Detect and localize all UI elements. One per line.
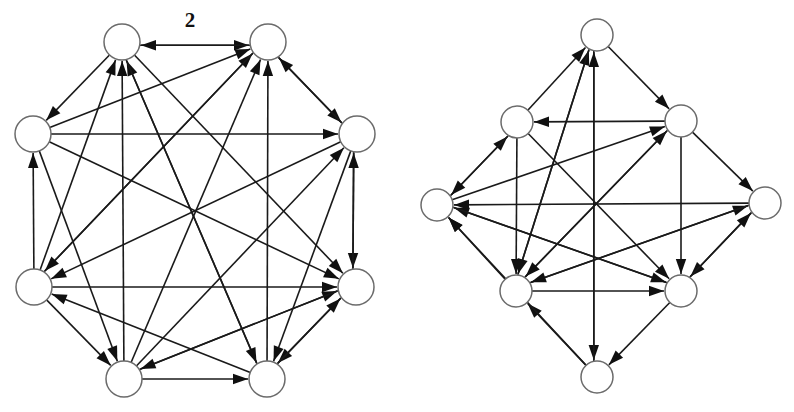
graph-edge-L0|L4 bbox=[126, 60, 256, 363]
graph-arrowhead-R2|R5 bbox=[531, 272, 547, 282]
graph-edge-L3|L2 bbox=[353, 153, 354, 269]
graph-arrowhead-L5|L4 bbox=[233, 374, 248, 384]
graph-arrowhead-L2|L6 bbox=[51, 268, 67, 279]
graph-node-R3[interactable] bbox=[665, 275, 697, 307]
graph-arrowhead-L4|L6 bbox=[52, 294, 68, 304]
graph-node-L4[interactable] bbox=[249, 361, 285, 397]
graph-edge-L7|L3 bbox=[49, 142, 339, 279]
graph-arrowhead-R5|R3 bbox=[649, 286, 664, 296]
graph-node-R5[interactable] bbox=[500, 275, 532, 307]
graph-arrowhead-L4|L1 bbox=[263, 61, 273, 76]
nodes-layer bbox=[15, 19, 781, 397]
graph-node-L3[interactable] bbox=[338, 269, 374, 305]
graph-edge-L7|L5 bbox=[39, 151, 117, 361]
graph-node-L5[interactable] bbox=[106, 361, 142, 397]
graph-node-R2[interactable] bbox=[749, 187, 781, 219]
graph-node-R1[interactable] bbox=[665, 105, 697, 137]
graph-arrowhead-R1|R3 bbox=[676, 259, 686, 274]
graph-edge-R2|R5 bbox=[531, 205, 749, 282]
graph-edge-L5|L0 bbox=[122, 61, 124, 361]
graph-arrowhead-L5|L1 bbox=[250, 59, 261, 75]
graph-node-R0[interactable] bbox=[581, 19, 613, 51]
graph-node-L6[interactable] bbox=[16, 269, 52, 305]
graph-arrowhead-L6|L7 bbox=[28, 153, 38, 168]
graph-node-R4[interactable] bbox=[581, 361, 613, 393]
graph-arrowhead-L6|L3 bbox=[322, 282, 337, 292]
edges-layer bbox=[28, 40, 753, 384]
graph-edge-L6|L0 bbox=[40, 60, 116, 270]
graph-node-L1[interactable] bbox=[250, 24, 286, 60]
graph-edge-L5|L2 bbox=[136, 148, 344, 366]
graph-arrowhead-L7|L2 bbox=[323, 129, 338, 139]
graph-edge-R1|R7 bbox=[534, 121, 665, 122]
graph-edge-R7|R5 bbox=[516, 138, 517, 274]
graph-node-R7[interactable] bbox=[501, 106, 533, 138]
graph-node-L7[interactable] bbox=[15, 116, 51, 152]
graph-node-R6[interactable] bbox=[421, 189, 453, 221]
graph-edge-R2|R6 bbox=[454, 203, 749, 205]
graph-arrowhead-L7|L5 bbox=[107, 345, 117, 361]
edge-weight-label-0: 2 bbox=[185, 8, 196, 32]
graph-arrowhead-L0|L4 bbox=[246, 347, 257, 363]
graph-arrowhead-L1|L0 bbox=[141, 40, 156, 50]
figure-root: 2 bbox=[0, 0, 794, 412]
labels-layer: 2 bbox=[185, 8, 196, 32]
graph-node-L2[interactable] bbox=[339, 116, 375, 152]
graph-arrowhead-R1|R7 bbox=[534, 117, 549, 127]
graph-edge-L4|L1 bbox=[267, 61, 268, 361]
graph-node-L0[interactable] bbox=[104, 24, 140, 60]
graph-arrowhead-R4|R0 bbox=[589, 52, 599, 67]
directed-graphs-canvas: 2 bbox=[0, 0, 794, 412]
graph-edge-L0|L3 bbox=[134, 55, 342, 273]
graph-arrowhead-L6|L0 bbox=[106, 60, 116, 76]
graph-arrowhead-R0|R5 bbox=[518, 258, 528, 274]
graph-edge-R6|R1 bbox=[452, 127, 665, 200]
graph-edge-L1|L6 bbox=[45, 53, 253, 271]
graph-edge-L6|L7 bbox=[33, 153, 34, 269]
graph-edge-L2|L6 bbox=[51, 142, 341, 279]
graph-arrowhead-L5|L0 bbox=[117, 61, 127, 76]
graph-edge-R7|R3 bbox=[528, 133, 669, 278]
graph-edge-R6|R3 bbox=[453, 207, 666, 282]
graph-edge-L2|L4 bbox=[274, 151, 351, 361]
